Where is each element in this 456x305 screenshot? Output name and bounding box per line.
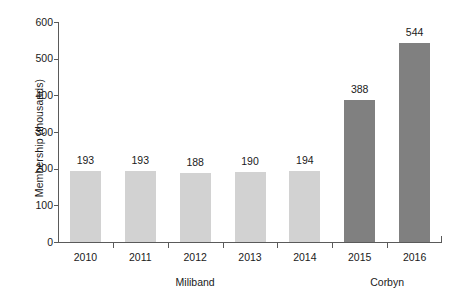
x-axis-category-label: 2010 xyxy=(58,252,112,263)
bar-value-label: 193 xyxy=(60,155,110,166)
bar xyxy=(125,171,156,242)
bar-value-label: 388 xyxy=(335,84,385,95)
y-axis-tick xyxy=(54,95,59,96)
bar-value-label: 544 xyxy=(390,27,440,38)
y-axis-tick-label: 200 xyxy=(19,163,53,174)
group-label: Corbyn xyxy=(327,277,447,288)
y-axis-tick xyxy=(54,205,59,206)
x-axis-category-label: 2011 xyxy=(113,252,167,263)
bar xyxy=(399,43,430,242)
x-axis-category-label: 2013 xyxy=(223,252,277,263)
group-label: Miliband xyxy=(135,277,255,288)
x-axis-category-label: 2016 xyxy=(388,252,442,263)
x-axis-tick xyxy=(113,243,114,248)
bar-value-label: 193 xyxy=(115,155,165,166)
x-axis-category-label: 2014 xyxy=(278,252,332,263)
bar-value-label: 194 xyxy=(280,155,330,166)
bar xyxy=(70,171,101,242)
bar-value-label: 188 xyxy=(170,157,220,168)
y-axis-tick-label: 300 xyxy=(19,127,53,138)
y-axis-tick-label: 0 xyxy=(19,237,53,248)
bar xyxy=(344,100,375,242)
y-axis-tick xyxy=(54,59,59,60)
x-axis-tick xyxy=(277,243,278,248)
x-axis-tick xyxy=(332,243,333,248)
y-axis-tick-label: 600 xyxy=(19,17,53,28)
x-axis-category-label: 2015 xyxy=(333,252,387,263)
x-axis-tick xyxy=(387,243,388,248)
y-axis-tick-label: 100 xyxy=(19,200,53,211)
x-axis-tick xyxy=(223,243,224,248)
y-axis-tick xyxy=(54,132,59,133)
bar xyxy=(289,171,320,242)
bar-chart: Membership (thousands) 01002003004005006… xyxy=(0,0,456,305)
x-axis-category-label: 2012 xyxy=(168,252,222,263)
x-axis-line xyxy=(58,242,442,243)
y-axis-tick-label: 500 xyxy=(19,53,53,64)
y-axis-tick-label: 400 xyxy=(19,90,53,101)
x-axis-tick xyxy=(168,243,169,248)
bar-value-label: 190 xyxy=(225,156,275,167)
x-axis-end-cap xyxy=(441,236,442,243)
y-axis-tick xyxy=(54,169,59,170)
bar xyxy=(235,172,266,242)
bar xyxy=(180,173,211,242)
y-axis-tick xyxy=(54,22,59,23)
